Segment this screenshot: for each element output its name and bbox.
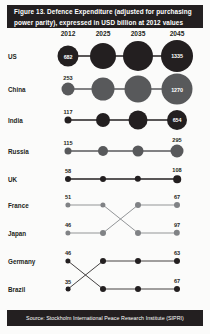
data-point-india-2035[interactable]	[129, 111, 148, 130]
series-label-us: US	[8, 53, 56, 60]
series-label-japan: Japan	[8, 230, 56, 237]
data-point-russia-2012[interactable]	[65, 148, 72, 155]
value-label-france-2012: 51	[65, 194, 71, 200]
value-label-japan-2045: 67	[174, 194, 180, 200]
value-label-germany-2045: 67	[174, 278, 180, 284]
figure-container: Figure 13. Defence Expenditure (adjusted…	[0, 0, 210, 334]
data-point-japan-2045[interactable]	[174, 202, 180, 208]
value-label-russia-2045: 295	[172, 137, 181, 143]
data-point-china-2025[interactable]	[92, 78, 115, 101]
data-point-china-2045[interactable]: 1270	[162, 74, 193, 105]
column-header-2035: 2035	[118, 30, 158, 37]
series-label-uk: UK	[8, 176, 56, 183]
data-point-germany-2035[interactable]	[135, 286, 141, 292]
value-label-china-2012: 253	[63, 75, 72, 81]
data-point-china-2012[interactable]	[62, 83, 75, 96]
value-label-russia-2012: 115	[63, 140, 72, 146]
value-label-japan-2012: 46	[65, 222, 71, 228]
data-point-china-2035[interactable]	[125, 76, 152, 103]
data-point-germany-2025[interactable]	[100, 286, 106, 292]
data-point-japan-2025[interactable]	[100, 230, 106, 236]
data-point-brazil-2025[interactable]	[100, 258, 106, 264]
value-label-brazil-2045: 63	[174, 250, 180, 256]
value-label-france-2045: 97	[174, 222, 180, 228]
chart-plot-area: US6821335China1270253India654117Russia11…	[0, 43, 210, 307]
value-label-brazil-2012: 35	[65, 279, 71, 285]
data-point-india-2012[interactable]	[65, 117, 72, 124]
column-header-2012: 2012	[48, 30, 88, 37]
series-label-russia: Russia	[8, 148, 56, 155]
value-label-uk-2012: 58	[65, 168, 71, 174]
column-header-2045: 2045	[157, 30, 197, 37]
data-point-india-2045[interactable]: 654	[167, 110, 187, 130]
series-line-france	[68, 205, 177, 233]
data-point-india-2025[interactable]	[96, 113, 110, 127]
data-point-russia-2025[interactable]	[98, 146, 108, 156]
figure-title: Figure 13. Defence Expenditure (adjusted…	[7, 5, 203, 28]
series-label-france: France	[8, 202, 56, 209]
data-point-france-2035[interactable]	[135, 230, 141, 236]
series-line-brazil	[68, 261, 177, 289]
series-label-india: India	[8, 117, 56, 124]
series-line-germany	[68, 261, 177, 289]
data-point-us-2012[interactable]: 682	[58, 46, 79, 67]
data-point-uk-2025[interactable]	[100, 176, 106, 182]
data-point-us-2025[interactable]	[90, 43, 116, 69]
series-label-germany: Germany	[8, 258, 56, 265]
value-label-germany-2012: 46	[65, 250, 71, 256]
data-point-brazil-2035[interactable]	[135, 258, 141, 264]
data-point-us-2045[interactable]: 1335	[161, 40, 193, 72]
value-label-uk-2045: 108	[172, 167, 181, 173]
data-point-russia-2035[interactable]	[133, 146, 144, 157]
data-point-us-2035[interactable]	[123, 41, 153, 71]
series-label-brazil: Brazil	[8, 286, 56, 293]
figure-source: Source: Stockholm International Peace Re…	[7, 310, 203, 326]
series-label-china: China	[8, 86, 56, 93]
data-point-japan-2035[interactable]	[135, 202, 141, 208]
data-point-brazil-2045[interactable]	[174, 258, 180, 264]
column-header-2025: 2025	[83, 30, 123, 37]
data-point-russia-2045[interactable]	[171, 145, 184, 158]
data-point-uk-2045[interactable]	[173, 175, 181, 183]
data-point-uk-2012[interactable]	[65, 176, 71, 182]
series-line-japan	[68, 205, 177, 233]
data-point-brazil-2012[interactable]	[66, 287, 71, 292]
value-label-india-2012: 117	[63, 109, 72, 115]
data-point-germany-2045[interactable]	[174, 286, 180, 292]
